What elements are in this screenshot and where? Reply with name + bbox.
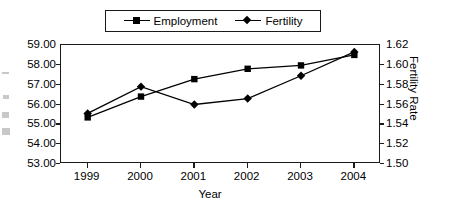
y2-axis-tick-label: 1.52 [386,137,408,149]
x-axis-tickmark [353,163,354,168]
x-axis-labels: 199920002001200220032004 [0,170,453,184]
legend-item-employment: Employment [124,15,218,27]
y-axis-tick-label: 58.00 [27,58,56,70]
plot-area [60,44,380,163]
x-axis-tickmark [300,163,301,168]
y2-axis-title: Fertility Rate [408,56,420,152]
x-axis-tick-label: 2001 [181,170,207,182]
y2-axis-tickmark [380,163,384,164]
y2-axis-tickmark [380,84,384,85]
legend-label-employment: Employment [154,15,218,27]
x-axis-tick-label: 1999 [74,170,100,182]
plot-svg [61,45,381,164]
x-axis-tickmark [193,163,194,168]
data-point-diamond [243,94,251,102]
legend-item-fertility: Fertility [235,15,302,27]
y-axis-tickmark [56,64,60,65]
y-axis-tick-label: 53.00 [27,157,56,169]
y2-axis-tickmark [380,123,384,124]
x-axis-tick-label: 2003 [287,170,313,182]
y-axis-tick-label: 59.00 [27,38,56,50]
legend-diamond-marker-icon [235,16,261,26]
y2-axis-tick-label: 1.54 [386,117,408,129]
x-axis-tickmark [247,163,248,168]
chart-legend: Employment Fertility [105,10,321,32]
x-axis-tick-label: 2000 [127,170,153,182]
y2-axis-tick-label: 1.62 [386,38,408,50]
y2-axis-tickmark [380,64,384,65]
data-point-square [244,66,250,72]
y2-axis-tick-label: 1.56 [386,98,408,110]
y-axis-tickmark [56,123,60,124]
x-axis-title: Year [0,188,420,200]
x-axis-tickmark [140,163,141,168]
y2-axis-tick-label: 1.58 [386,78,408,90]
y-axis-tickmark [56,143,60,144]
y2-axis-tick-label: 1.60 [386,58,408,70]
y2-axis-tickmark [380,143,384,144]
series-line-fertility [88,52,355,113]
y2-axis-tickmark [380,104,384,105]
y-axis-tick-label: 57.00 [27,78,56,90]
chart-container: Employment Fertility 59.0058.0057.0056.0… [0,0,453,208]
data-point-square [191,76,197,82]
x-axis-tick-label: 2004 [341,170,367,182]
data-point-diamond [137,82,145,90]
series-line-employment [88,55,355,117]
y-axis-tickmark [56,163,60,164]
data-point-diamond [190,100,198,108]
y-axis-tick-label: 54.00 [27,137,56,149]
data-point-square [138,93,144,99]
data-point-square [298,62,304,68]
y2-axis-tick-label: 1.50 [386,157,408,169]
y-axis-tick-label: 55.00 [27,117,56,129]
data-point-diamond [297,72,305,80]
x-axis-tickmark [87,163,88,168]
legend-square-marker-icon [124,16,150,26]
y-axis-tickmark [56,104,60,105]
y-axis-tick-label: 56.00 [27,98,56,110]
y-axis-tickmark [56,84,60,85]
legend-label-fertility: Fertility [265,15,302,27]
x-axis-tick-label: 2002 [234,170,260,182]
